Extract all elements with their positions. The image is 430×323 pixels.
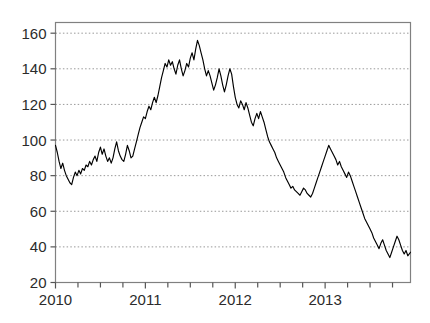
line-chart: 20406080100120140160 2010201120122013 <box>0 0 430 323</box>
y-axis-label-20: 20 <box>30 274 47 291</box>
y-axis-label-120: 120 <box>21 96 46 113</box>
y-axis-label-40: 40 <box>30 238 47 255</box>
y-axis-label-100: 100 <box>21 132 46 149</box>
y-axis-label-80: 80 <box>30 167 47 184</box>
x-axis-label-2013: 2013 <box>308 291 341 308</box>
x-axis-label-2011: 2011 <box>129 291 161 308</box>
x-axis-label-2012: 2012 <box>219 291 252 308</box>
x-axis-label-2010: 2010 <box>39 291 72 308</box>
y-axis-label-60: 60 <box>30 203 47 220</box>
y-axis-label-160: 160 <box>21 25 46 42</box>
y-axis-label-140: 140 <box>21 60 46 77</box>
chart-container: 20406080100120140160 2010201120122013 <box>0 0 430 323</box>
chart-background <box>0 0 430 323</box>
